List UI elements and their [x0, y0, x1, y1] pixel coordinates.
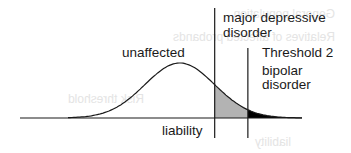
unaffected-label: unaffected [122, 45, 185, 60]
bipolar-label-line1: bipolar [262, 63, 303, 78]
major-depressive-label-line1: major depressive [223, 10, 326, 25]
ghost-text: liability [255, 135, 291, 149]
threshold-2-label: Threshold 2 [262, 45, 333, 60]
liability-threshold-diagram: General population Relatives of affected… [0, 0, 351, 153]
major-depressive-label-line2: disorder [223, 25, 272, 40]
ghost-text: Risk threshold [68, 92, 144, 106]
bipolar-label-line2: disorder [262, 77, 311, 92]
liability-axis-label: liability [162, 123, 203, 138]
